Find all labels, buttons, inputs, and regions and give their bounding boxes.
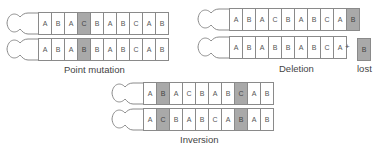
inversion-label: Inversion <box>180 134 219 145</box>
gene-cell: A <box>295 8 308 31</box>
gene-cell: A <box>143 82 157 105</box>
deletion-label: Deletion <box>279 63 314 74</box>
gene-cell-inversion-boundary: B <box>235 108 248 131</box>
gene-cell: C <box>209 108 222 131</box>
gene-cell-inversion-boundary: B <box>157 82 170 105</box>
gene-cell: B <box>308 36 321 59</box>
chromosome-head-icon <box>111 82 143 104</box>
gene-cell: C <box>130 12 143 35</box>
gene-cell: B <box>269 36 282 59</box>
gene-cell: A <box>209 82 222 105</box>
gene-cell: A <box>295 36 308 59</box>
gene-cell: A <box>65 12 78 35</box>
gene-cell: A <box>183 108 196 131</box>
gene-cell: A <box>334 8 347 31</box>
gene-cell: B <box>243 36 256 59</box>
plus-sign: + <box>345 42 350 51</box>
chromosome-head-icon <box>197 8 229 30</box>
gene-cell: A <box>65 38 78 61</box>
point-mutation-chromosome-before: A B A C B A B C A B <box>6 12 169 34</box>
gene-cell-mutated: C <box>78 12 91 35</box>
gene-cell: C <box>321 36 334 59</box>
gene-cell: C <box>130 38 143 61</box>
gene-cell: A <box>248 82 261 105</box>
gene-cell-deleted: B <box>347 8 360 31</box>
gene-cell: B <box>261 108 274 131</box>
gene-cell: B <box>52 38 65 61</box>
lost-gene-box: B <box>357 38 371 61</box>
gene-cell: B <box>196 108 209 131</box>
gene-cell: A <box>170 82 183 105</box>
gene-cell: B <box>156 38 169 61</box>
point-mutation-label: Point mutation <box>64 64 125 75</box>
deletion-chromosome-after: A B A B B A B C A <box>197 36 347 58</box>
gene-cell: A <box>104 38 117 61</box>
gene-cell: C <box>321 8 334 31</box>
gene-cell: B <box>170 108 183 131</box>
gene-cell: C <box>269 8 282 31</box>
gene-cell: B <box>117 12 130 35</box>
gene-cell: A <box>256 36 269 59</box>
gene-cell: A <box>104 12 117 35</box>
gene-cell: B <box>282 36 295 59</box>
gene-cell: A <box>222 108 235 131</box>
gene-cell: A <box>38 38 52 61</box>
gene-cell: A <box>248 108 261 131</box>
gene-cell: B <box>308 8 321 31</box>
gene-cell: B <box>243 8 256 31</box>
gene-cell: A <box>143 12 156 35</box>
gene-cell: A <box>229 36 243 59</box>
chromosome-head-icon <box>6 38 38 60</box>
gene-cell-mutated: B <box>78 38 91 61</box>
lost-label: lost <box>357 63 372 74</box>
inversion-chromosome-before: A B A C B A B C A B <box>111 82 274 104</box>
inversion-chromosome-after: A C B A B C A B A B <box>111 108 274 130</box>
gene-cell: A <box>38 12 52 35</box>
gene-cell: C <box>183 82 196 105</box>
chromosome-head-icon <box>111 108 143 130</box>
gene-cell: A <box>229 8 243 31</box>
gene-cell-inversion-boundary: C <box>235 82 248 105</box>
gene-cell: B <box>117 38 130 61</box>
gene-cell-inversion-boundary: C <box>157 108 170 131</box>
gene-cell: A <box>143 108 157 131</box>
gene-cell: B <box>91 38 104 61</box>
gene-cell: A <box>256 8 269 31</box>
gene-cell: B <box>222 82 235 105</box>
gene-cell: B <box>156 12 169 35</box>
gene-cell: A <box>143 38 156 61</box>
gene-cell: B <box>196 82 209 105</box>
gene-cell: B <box>91 12 104 35</box>
chromosome-head-icon <box>197 36 229 58</box>
chromosome-head-icon <box>6 12 38 34</box>
gene-cell: B <box>261 82 274 105</box>
point-mutation-chromosome-after: A B A B B A B C A B <box>6 38 169 60</box>
gene-cell: B <box>52 12 65 35</box>
deletion-chromosome-before: A B A C B A B C A B <box>197 8 360 30</box>
gene-cell: B <box>282 8 295 31</box>
